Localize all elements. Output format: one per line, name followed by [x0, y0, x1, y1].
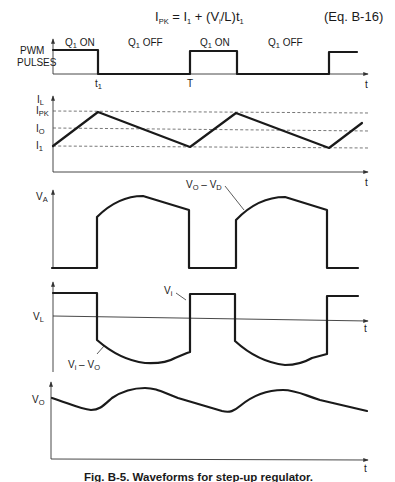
- va-plot: VA VO – VD: [36, 179, 358, 268]
- pwm-state-4: Q1 OFF: [268, 37, 303, 50]
- vi-vo-leader: [97, 346, 104, 354]
- vo-vd-annotation: VO – VD: [186, 179, 222, 192]
- pwm-state-2: Q1 OFF: [128, 37, 163, 50]
- pwm-state-3: Q1 ON: [200, 37, 230, 50]
- figure-caption: Fig. B-5. Waveforms for step-up regulato…: [84, 471, 313, 482]
- pwm-label-line1: PWM: [20, 45, 44, 56]
- vl-plot: Vi VL Vi – VO t: [33, 282, 368, 372]
- io-label: IO: [36, 123, 45, 136]
- vi-annotation: Vi: [164, 285, 173, 298]
- va-trace: [52, 196, 358, 268]
- vl-t-label: t: [364, 323, 367, 334]
- vo-vd-leader: [225, 186, 244, 210]
- i1-label: I1: [36, 140, 43, 153]
- pwm-plot: PWM PULSES Q1 ON Q1 OFF Q1 ON Q1 OFF t1 …: [17, 37, 368, 91]
- equation-tag: (Eq. B-16): [324, 9, 383, 24]
- pwm-trace: [53, 50, 357, 74]
- vi-vo-annotation: Vi – VO: [68, 359, 100, 372]
- waveform-figure: IPK = I1 + (Vi/L)t1 (Eq. B-16) PWM PULSE…: [0, 0, 395, 482]
- equation: IPK = I1 + (Vi/L)t1: [155, 9, 244, 26]
- inductor-current-plot: IL IPK IO I1 t: [36, 94, 370, 188]
- vl-trace: [53, 293, 358, 365]
- vo-t-label: t: [364, 463, 367, 474]
- va-ylabel: VA: [36, 191, 48, 204]
- vl-x-axis: [53, 316, 368, 321]
- vo-ylabel: VO: [32, 394, 45, 407]
- il-t-label: t: [365, 177, 368, 188]
- vl-ylabel: VL: [33, 311, 44, 324]
- inductor-current-trace: [53, 112, 362, 148]
- vo-plot: VO t: [32, 382, 368, 474]
- pwm-t-label: t: [365, 79, 368, 90]
- vi-leader: [176, 293, 186, 300]
- vo-trace: [52, 388, 367, 412]
- vo-x-axis: [51, 459, 368, 460]
- tick-T: T: [187, 78, 193, 89]
- pwm-label-line2: PULSES: [17, 57, 57, 68]
- pwm-state-1: Q1 ON: [65, 37, 95, 50]
- tick-t1: t1: [95, 78, 102, 91]
